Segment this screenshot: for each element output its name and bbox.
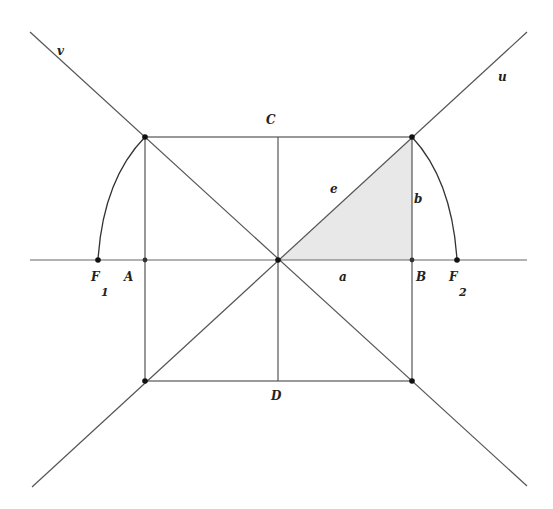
label-A: A [123,270,133,284]
label-u: u [498,70,507,84]
point-A [143,258,148,263]
point-F2 [454,257,460,263]
point-B [410,258,415,263]
point-F1 [95,257,101,263]
arc-left [98,137,145,260]
point-bottom-right [409,378,415,384]
label-F2: F [448,270,459,284]
hyperbola-diagram: v u C D A B e a b F 1 F 2 [0,0,553,509]
label-F2-subscript: 2 [458,286,467,299]
point-top-left [142,134,148,140]
label-b: b [414,192,422,206]
label-B: B [415,270,426,284]
label-F1: F [90,270,101,284]
point-bottom-left [142,378,148,384]
label-F1-subscript: 1 [101,286,109,299]
point-center [275,257,281,263]
label-a: a [339,270,347,284]
label-D: D [270,389,282,403]
label-e: e [330,182,338,196]
label-v: v [57,44,65,58]
point-top-right [409,134,415,140]
label-C: C [266,113,276,127]
